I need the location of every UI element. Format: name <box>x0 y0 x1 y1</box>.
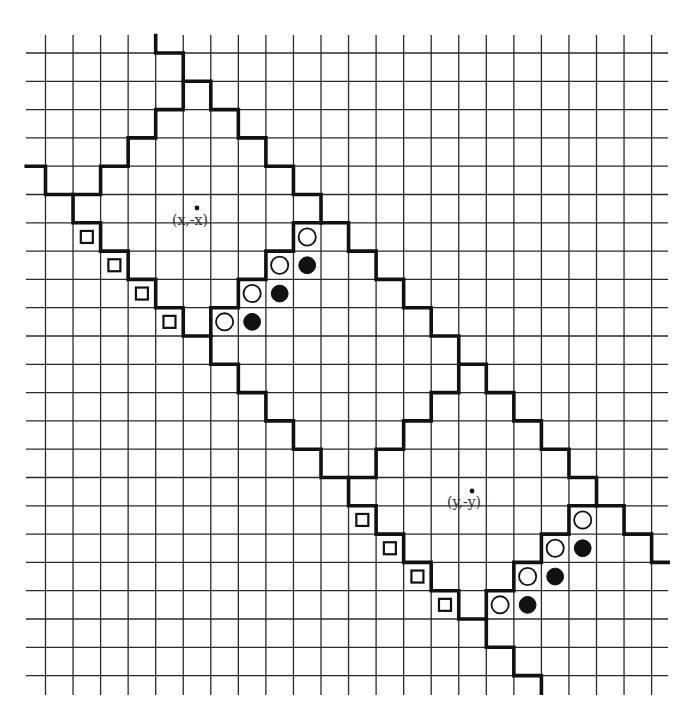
open-circle-icon <box>271 257 288 274</box>
point-y-dot-icon <box>470 489 475 494</box>
square-marker-icon <box>81 231 93 243</box>
filled-circle-icon <box>547 568 564 585</box>
filled-circle-icon <box>244 313 261 330</box>
background <box>0 0 690 720</box>
open-circle-icon <box>491 596 508 613</box>
point-x-label: (x,-x) <box>172 212 208 228</box>
open-circle-icon <box>216 313 233 330</box>
square-marker-icon <box>163 316 175 328</box>
open-circle-icon <box>547 540 564 557</box>
lattice-path-diagram: (x,-x) (y,-y) <box>0 0 690 720</box>
square-marker-icon <box>356 514 368 526</box>
filled-circle-icon <box>271 285 288 302</box>
open-circle-icon <box>244 285 261 302</box>
open-circle-icon <box>519 568 536 585</box>
square-marker-icon <box>439 599 451 611</box>
open-circle-icon <box>299 228 316 245</box>
square-marker-icon <box>108 259 120 271</box>
point-y-label: (y,-y) <box>447 494 481 510</box>
filled-circle-icon <box>519 596 536 613</box>
filled-circle-icon <box>574 540 591 557</box>
square-marker-icon <box>136 288 148 300</box>
square-marker-icon <box>411 571 423 583</box>
open-circle-icon <box>574 511 591 528</box>
point-x-dot-icon <box>195 206 200 211</box>
square-marker-icon <box>384 542 396 554</box>
filled-circle-icon <box>299 257 316 274</box>
